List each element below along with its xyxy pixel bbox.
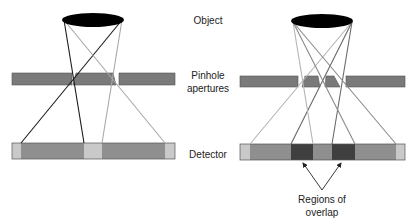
label-detector: Detector	[189, 149, 227, 160]
label-overlap-1: Regions of	[298, 194, 346, 205]
label-object: Object	[194, 15, 223, 26]
right-object-ellipse	[291, 14, 353, 28]
left-detector	[12, 143, 175, 159]
right-detector	[240, 144, 405, 160]
arrow-left-icon	[303, 163, 322, 190]
overlap-region-1	[291, 144, 313, 160]
left-aperture-plate	[12, 73, 175, 85]
overlap-region-2	[332, 144, 355, 160]
right-diagram: Regions of overlap	[240, 14, 405, 218]
label-overlap-2: overlap	[306, 207, 339, 218]
left-diagram	[12, 13, 175, 159]
center-labels: Object Pinhole apertures Detector	[187, 15, 229, 160]
pinhole-diagram: Object Pinhole apertures Detector	[0, 0, 417, 223]
overlap-arrows	[303, 163, 341, 190]
label-pinhole-2: apertures	[187, 83, 229, 94]
left-object-ellipse	[62, 13, 124, 27]
label-pinhole-1: Pinhole	[191, 70, 225, 81]
arrow-right-icon	[322, 163, 341, 190]
